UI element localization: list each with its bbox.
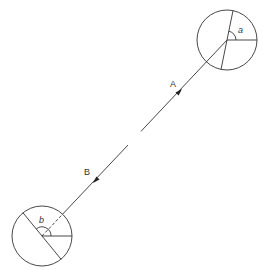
angle-label-a: a (238, 26, 243, 35)
top-angle-arc (229, 31, 236, 40)
arrow-A-icon (176, 89, 183, 95)
diagram-canvas (0, 0, 267, 270)
bottom-dashed-segment (42, 214, 63, 236)
label-B: B (84, 168, 90, 177)
connector-upper-segment (141, 40, 227, 131)
angle-label-b: b (39, 216, 44, 225)
arrow-B-icon (93, 177, 100, 183)
label-A: A (170, 80, 176, 89)
